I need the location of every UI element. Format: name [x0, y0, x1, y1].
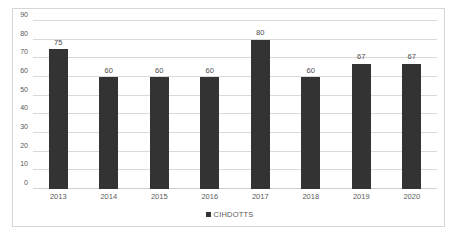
bar-slot: 60 [286, 21, 337, 189]
bar: 67 [352, 64, 371, 189]
bar-value-label: 60 [307, 67, 315, 75]
legend-label-cihdotts: CIHDOTTS [214, 211, 254, 219]
chart-container: 0102030405060708090 7560606080606767 201… [12, 8, 445, 227]
y-axis-tick-label: 20 [20, 141, 28, 148]
bar-value-label: 67 [408, 53, 416, 61]
bar: 60 [200, 77, 219, 189]
bar: 67 [402, 64, 421, 189]
bar-slot: 60 [185, 21, 236, 189]
bar-slot: 67 [336, 21, 387, 189]
bar-slot: 75 [33, 21, 84, 189]
x-axis-tick-label: 2020 [387, 193, 438, 201]
bar: 60 [301, 77, 320, 189]
x-axis-tick-label: 2014 [84, 193, 135, 201]
bar-slot: 80 [235, 21, 286, 189]
x-axis-tick-label: 2019 [336, 193, 387, 201]
bar: 80 [251, 40, 270, 189]
x-axis-tick-label: 2015 [134, 193, 185, 201]
y-axis-tick-label: 50 [20, 85, 28, 92]
chart-legend: CIHDOTTS [13, 211, 446, 219]
y-axis-tick-label: 10 [20, 160, 28, 167]
y-axis-tick-label: 30 [20, 123, 28, 130]
x-axis-tick-label: 2018 [286, 193, 337, 201]
y-axis-tick-label: 60 [20, 67, 28, 74]
x-axis-tick-labels: 20132014201520162017201820192020 [33, 193, 437, 201]
y-axis-tick-label: 0 [24, 179, 28, 186]
bar: 60 [99, 77, 118, 189]
bar-value-label: 60 [206, 67, 214, 75]
plot-area: 0102030405060708090 7560606080606767 [33, 21, 437, 189]
bar-value-label: 67 [357, 53, 365, 61]
bar: 75 [49, 49, 68, 189]
x-axis-tick-label: 2017 [235, 193, 286, 201]
bar-value-label: 60 [155, 67, 163, 75]
y-axis-tick-label: 40 [20, 104, 28, 111]
y-axis-tick-label: 70 [20, 48, 28, 55]
x-axis-tick-label: 2016 [185, 193, 236, 201]
bar: 60 [150, 77, 169, 189]
legend-swatch-icon [206, 212, 211, 217]
bar-value-label: 60 [105, 67, 113, 75]
bar-slot: 67 [387, 21, 438, 189]
y-axis-tick-label: 90 [20, 11, 28, 18]
bar-value-label: 75 [54, 39, 62, 47]
x-axis-tick-label: 2013 [33, 193, 84, 201]
bar-slot: 60 [84, 21, 135, 189]
bar-slot: 60 [134, 21, 185, 189]
y-axis-tick-label: 80 [20, 29, 28, 36]
bar-series-cihdotts: 7560606080606767 [33, 21, 437, 189]
bar-value-label: 80 [256, 29, 264, 37]
